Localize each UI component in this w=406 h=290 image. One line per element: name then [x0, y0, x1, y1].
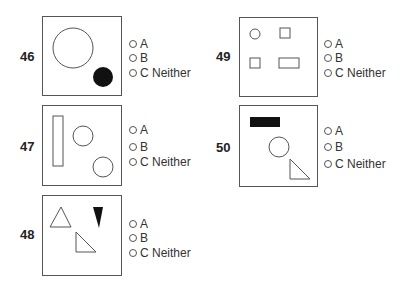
small-square-shape	[280, 28, 290, 38]
radio-icon[interactable]	[324, 127, 332, 135]
question-figure	[42, 16, 122, 96]
option-b[interactable]: B	[324, 51, 343, 65]
radio-icon[interactable]	[129, 126, 137, 134]
question-figure	[42, 195, 122, 276]
question-figure	[239, 105, 318, 187]
option-label: B	[140, 51, 148, 65]
question-figure	[239, 17, 318, 97]
hollow-circle-shape	[269, 137, 289, 157]
radio-icon[interactable]	[324, 143, 332, 151]
option-b[interactable]: B	[324, 140, 343, 154]
option-label: C Neither	[335, 157, 386, 171]
filled-triangle-shape	[93, 207, 103, 228]
option-a[interactable]: A	[129, 37, 148, 51]
option-b[interactable]: B	[129, 231, 148, 245]
figure-shapes	[240, 106, 319, 188]
radio-icon[interactable]	[129, 54, 137, 62]
question-number: 49	[216, 50, 230, 64]
hollow-triangle-shape	[50, 207, 71, 227]
option-c[interactable]: C Neither	[129, 66, 191, 80]
hollow-rectangle-shape	[53, 116, 63, 166]
hollow-right-triangle-shape	[76, 232, 96, 252]
radio-icon[interactable]	[324, 54, 332, 62]
hollow-rectangle-shape	[279, 58, 299, 68]
option-a[interactable]: A	[324, 124, 343, 138]
hollow-circle-shape	[53, 28, 93, 68]
hollow-right-triangle-shape	[290, 159, 310, 179]
option-c[interactable]: C Neither	[324, 157, 386, 171]
option-label: B	[140, 140, 148, 154]
figure-shapes	[43, 196, 123, 277]
option-c[interactable]: C Neither	[324, 66, 386, 80]
question-number: 47	[20, 140, 34, 154]
radio-icon[interactable]	[324, 160, 332, 168]
option-label: C Neither	[140, 66, 191, 80]
radio-icon[interactable]	[324, 69, 332, 77]
figure-shapes	[43, 106, 123, 187]
hollow-circle-shape	[93, 157, 113, 177]
filled-rectangle-shape	[250, 117, 280, 127]
option-label: A	[335, 124, 343, 138]
figure-shapes	[240, 18, 319, 98]
radio-icon[interactable]	[129, 234, 137, 242]
question-number: 50	[216, 141, 230, 155]
option-label: A	[140, 217, 148, 231]
option-label: C Neither	[140, 155, 191, 169]
figure-shapes	[43, 17, 123, 97]
option-a[interactable]: A	[129, 123, 148, 137]
option-label: B	[140, 231, 148, 245]
option-label: C Neither	[335, 66, 386, 80]
question-number: 46	[20, 50, 34, 64]
radio-icon[interactable]	[129, 40, 137, 48]
option-label: C Neither	[140, 246, 191, 260]
question-figure	[42, 105, 122, 186]
hollow-circle-shape	[73, 126, 93, 146]
option-c[interactable]: C Neither	[129, 246, 191, 260]
radio-icon[interactable]	[129, 158, 137, 166]
question-number: 48	[20, 228, 34, 242]
radio-icon[interactable]	[324, 40, 332, 48]
option-label: A	[140, 37, 148, 51]
small-square-shape	[250, 58, 260, 68]
filled-circle-shape	[93, 67, 113, 87]
option-c[interactable]: C Neither	[129, 155, 191, 169]
option-label: A	[335, 37, 343, 51]
radio-icon[interactable]	[129, 249, 137, 257]
option-label: B	[335, 51, 343, 65]
option-b[interactable]: B	[129, 140, 148, 154]
radio-icon[interactable]	[129, 69, 137, 77]
option-label: B	[335, 140, 343, 154]
option-label: A	[140, 123, 148, 137]
option-a[interactable]: A	[129, 217, 148, 231]
small-circle-shape	[250, 29, 260, 39]
option-b[interactable]: B	[129, 51, 148, 65]
option-a[interactable]: A	[324, 37, 343, 51]
radio-icon[interactable]	[129, 220, 137, 228]
radio-icon[interactable]	[129, 143, 137, 151]
